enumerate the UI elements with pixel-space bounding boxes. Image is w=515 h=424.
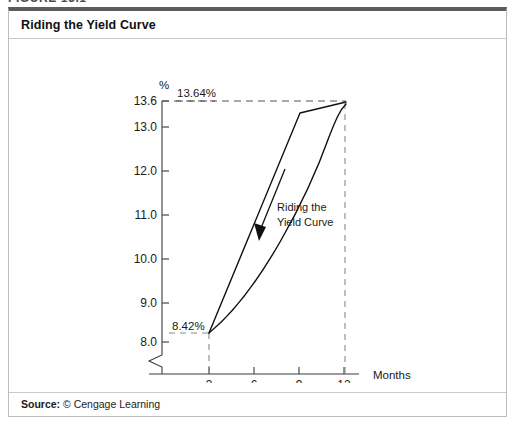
y-tick-label-10-0: 10.0 xyxy=(134,252,158,266)
source-line: Source: © Cengage Learning xyxy=(21,398,160,410)
x-tick-label-12: 12 xyxy=(337,378,351,383)
chart-plot-area: 13.6 13.0 12.0 11.0 10.0 9.0 8.0 % 3 6 9… xyxy=(9,43,506,383)
source-label: Source: xyxy=(21,398,60,410)
annotation-line-1: Riding the xyxy=(277,201,327,213)
yield-curve-chart: 13.6 13.0 12.0 11.0 10.0 9.0 8.0 % 3 6 9… xyxy=(9,43,506,383)
y-tick-label-9-0: 9.0 xyxy=(140,296,157,310)
x-tick-label-3: 3 xyxy=(206,378,213,383)
value-label-13-64: 13.64% xyxy=(177,87,216,99)
page-title: Riding the Yield Curve xyxy=(21,18,156,32)
figure-number-label: FIGURE 13.1 xyxy=(8,0,87,5)
x-axis-label: Months xyxy=(373,369,411,381)
value-label-8-42: 8.42% xyxy=(172,320,205,332)
y-tick-label-11-0: 11.0 xyxy=(135,208,158,222)
y-tick-label-8-0: 8.0 xyxy=(140,335,157,349)
x-tick-label-9: 9 xyxy=(296,378,303,383)
y-axis-break-zigzag xyxy=(149,349,162,374)
x-tick-label-6: 6 xyxy=(251,378,258,383)
source-text: © Cengage Learning xyxy=(63,398,160,410)
figure-box: Riding the Yield Curve 13.6 13.0 1 xyxy=(8,7,507,417)
y-tick-label-13-6: 13.6 xyxy=(134,94,158,108)
annotation-line-2: Yield Curve xyxy=(277,216,333,228)
y-tick-label-12-0: 12.0 xyxy=(134,164,158,178)
y-axis-label: % xyxy=(159,79,169,91)
figure-header: Riding the Yield Curve xyxy=(9,11,506,39)
figure-footer: Source: © Cengage Learning xyxy=(9,392,506,416)
figure-number-strip: FIGURE 13.1 xyxy=(8,0,168,7)
y-tick-label-13-0: 13.0 xyxy=(134,120,158,134)
x-axis-ticks xyxy=(209,367,344,374)
y-axis-ticks xyxy=(162,101,169,342)
